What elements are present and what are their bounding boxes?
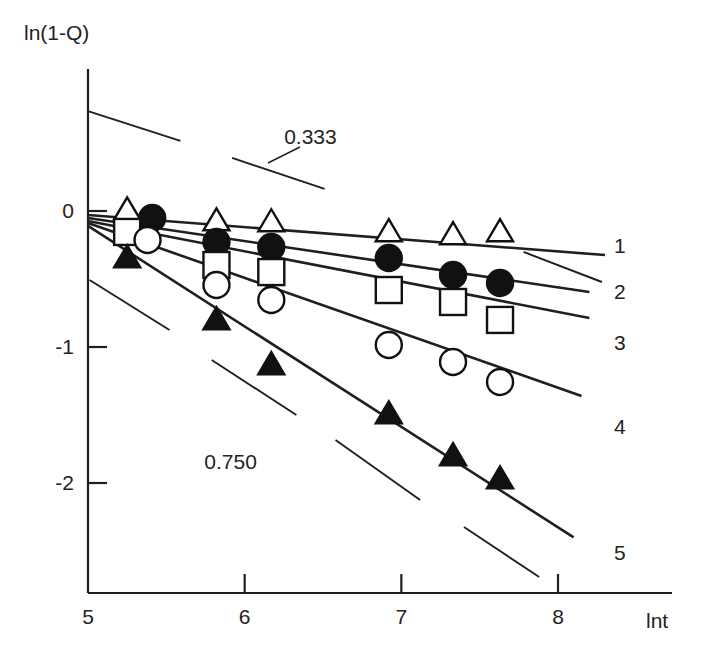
slope-value-label: 0.333 [284,125,337,148]
data-point-filled-circle-series-2 [487,270,513,296]
data-point-open-circle-series-4 [487,369,513,395]
data-point-open-square-series-3 [440,289,466,315]
data-point-filled-circle-series-2 [376,245,402,271]
x-axis-title: lnt [646,609,668,632]
series-label-5: 5 [614,541,626,564]
data-point-open-circle-series-4 [440,349,466,375]
chart-figure: 0-1-2 5678 ln(1-Q) lnt 0.3330.750 12345 [0,0,714,662]
x-tick-label: 6 [239,605,251,628]
x-tick-label: 8 [552,605,564,628]
series-label-1: 1 [614,234,626,257]
data-point-open-circle-series-4 [135,227,161,253]
series-label-3: 3 [614,331,626,354]
data-point-filled-circle-series-2 [440,262,466,288]
data-point-open-circle-series-4 [376,332,402,358]
x-tick-label: 5 [82,605,94,628]
data-point-open-square-series-3 [376,277,402,303]
y-axis-title: ln(1-Q) [24,21,89,44]
data-point-open-square-series-3 [487,307,513,333]
data-point-open-circle-series-4 [258,287,284,313]
series-label-2: 2 [614,280,626,303]
y-tick-label: -2 [55,471,74,494]
data-point-open-square-series-3 [258,259,284,285]
y-tick-label: -1 [55,335,74,358]
kinetics-scatter-chart: 0-1-2 5678 ln(1-Q) lnt 0.3330.750 12345 [0,0,714,662]
data-point-filled-circle-series-2 [258,234,284,260]
series-label-4: 4 [614,415,626,438]
y-tick-label: 0 [62,199,74,222]
x-tick-label: 7 [395,605,407,628]
slope-value-label: 0.750 [204,450,257,473]
chart-background [0,0,714,662]
data-point-open-circle-series-4 [203,272,229,298]
